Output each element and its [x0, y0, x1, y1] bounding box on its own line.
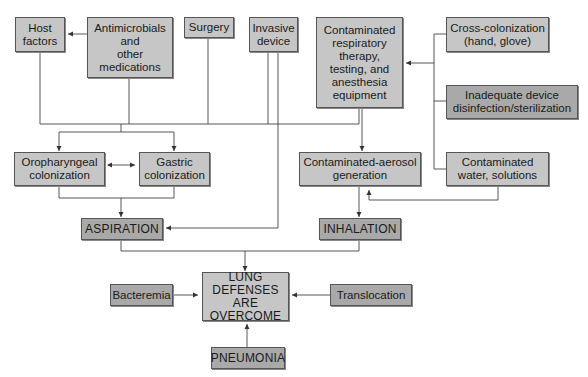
node-label: ASPIRATION — [85, 223, 159, 236]
node-translocation: Translocation — [330, 284, 412, 306]
node-label: LUNG DEFENSES ARE OVERCOME — [206, 271, 285, 323]
node-lung-defenses-overcome: LUNG DEFENSES ARE OVERCOME — [202, 272, 289, 321]
node-oropharyngeal-colonization: Oropharyngeal colonization — [14, 152, 105, 186]
node-label: Antimicrobials and other medications — [94, 22, 166, 74]
node-label: Contaminated respiratory therapy, testin… — [324, 24, 396, 102]
node-label: Surgery — [189, 21, 229, 34]
node-label: PNEUMONIA — [211, 352, 285, 365]
node-inhalation: INHALATION — [319, 218, 401, 240]
node-host-factors: Host factors — [15, 17, 65, 52]
node-label: Inadequate device disinfection/steriliza… — [453, 89, 571, 115]
node-contaminated-aerosol: Contaminated-aerosol generation — [299, 152, 421, 186]
node-inadequate-disinfection: Inadequate device disinfection/steriliza… — [446, 85, 578, 119]
pneumonia-pathogenesis-diagram: Host factors Antimicrobials and other me… — [0, 0, 588, 377]
node-label: Contaminated-aerosol generation — [303, 156, 416, 182]
node-aspiration: ASPIRATION — [81, 218, 163, 240]
node-surgery: Surgery — [184, 17, 234, 38]
node-contaminated-equipment: Contaminated respiratory therapy, testin… — [316, 17, 403, 108]
node-cross-colonization: Cross-colonization (hand, glove) — [446, 17, 549, 52]
node-bacteremia: Bacteremia — [110, 284, 173, 306]
node-label: Oropharyngeal colonization — [21, 156, 97, 182]
node-label: Invasive device — [252, 22, 294, 48]
node-contaminated-water: Contaminated water, solutions — [446, 152, 549, 186]
node-invasive-device: Invasive device — [249, 17, 298, 52]
node-label: Contaminated water, solutions — [458, 156, 537, 182]
node-label: INHALATION — [323, 223, 396, 236]
node-label: Bacteremia — [112, 289, 170, 302]
node-label: Translocation — [337, 289, 406, 302]
node-antimicrobials: Antimicrobials and other medications — [87, 17, 173, 78]
node-label: Host factors — [23, 22, 58, 48]
node-label: Gastric colonization — [144, 156, 205, 182]
node-label: Cross-colonization (hand, glove) — [450, 22, 545, 48]
node-gastric-colonization: Gastric colonization — [139, 152, 210, 186]
node-pneumonia: PNEUMONIA — [211, 347, 285, 369]
